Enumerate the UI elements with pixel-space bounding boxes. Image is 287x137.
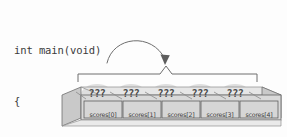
- array-memory-diagram: int main(void) { int scores[5]; … }: [0, 0, 287, 137]
- array-value-1: ???: [118, 88, 144, 99]
- array-bottom-edge: [62, 120, 281, 126]
- array-value-3: ???: [187, 88, 213, 99]
- arrow-curve: [107, 41, 165, 63]
- array-label-1: scores[1]: [124, 111, 160, 118]
- array-label-4: scores[4]: [241, 111, 277, 118]
- array-span-brace: [78, 66, 257, 82]
- declaration-to-array-arrow: [107, 41, 170, 65]
- array-label-3: scores[3]: [202, 111, 238, 118]
- array-top-face: [81, 87, 281, 95]
- array-left-end-cap: [62, 87, 81, 126]
- array-value-2: ???: [153, 88, 179, 99]
- array-label-2: scores[2]: [163, 111, 199, 118]
- arrow-head-icon: [161, 55, 170, 66]
- array-value-0: ???: [84, 88, 110, 99]
- array-label-0: scores[0]: [85, 111, 121, 118]
- array-value-4: ???: [222, 88, 248, 99]
